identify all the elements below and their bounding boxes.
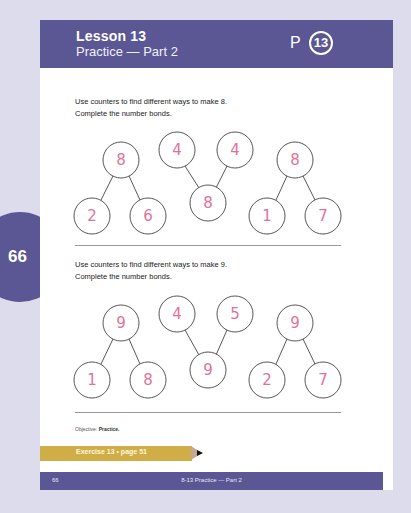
bond-part-value: 1	[262, 207, 272, 225]
bond-whole-value: 8	[203, 194, 213, 212]
bond-part-value: 4	[172, 141, 182, 159]
page-footer: 66 8-13 Practice — Part 2	[40, 472, 383, 490]
bond-part-value: 6	[143, 207, 153, 225]
number-bond: 4 4 8	[159, 132, 253, 221]
bond-whole-value: 9	[203, 361, 213, 379]
bond-part-value: 2	[87, 207, 97, 225]
bond-part-value: 1	[87, 371, 97, 389]
bond-part-value: 2	[262, 371, 272, 389]
bond-part-value: 4	[230, 141, 240, 159]
bond-part-value: 7	[318, 207, 328, 225]
number-bonds-diagram: 8 2 6 4 4 8 8 1 7 9 1 8	[0, 0, 411, 513]
exercise-pencil-banner[interactable]: Exercise 13 • page 51	[40, 446, 192, 461]
exercise-link-label: Exercise 13 • page 51	[76, 448, 147, 455]
objective-value: Practice.	[99, 426, 120, 432]
bond-whole-value: 8	[290, 151, 300, 169]
bond-whole-value: 8	[116, 151, 126, 169]
bond-part-value: 7	[318, 371, 328, 389]
number-bond: 9 1 8	[74, 305, 166, 398]
objective-label: Objective:	[75, 426, 97, 432]
objective-text: Objective: Practice.	[75, 426, 119, 432]
bond-part-value: 4	[172, 305, 182, 323]
number-bond: 4 5 9	[159, 296, 253, 388]
number-bond: 8 2 6	[74, 142, 166, 234]
bond-whole-value: 9	[116, 314, 126, 332]
number-bond: 8 1 7	[249, 142, 341, 234]
bond-part-value: 5	[230, 305, 240, 323]
bond-whole-value: 9	[290, 314, 300, 332]
footer-title: 8-13 Practice — Part 2	[40, 477, 383, 483]
bond-part-value: 8	[143, 371, 153, 389]
pencil-lead-icon	[197, 450, 203, 456]
number-bond: 9 2 7	[249, 305, 341, 398]
